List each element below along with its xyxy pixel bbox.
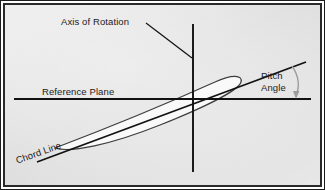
label-reference-plane: Reference Plane [42,86,114,97]
label-axis-of-rotation: Axis of Rotation [61,16,129,27]
label-pitch-angle-line1: Pitch [261,70,286,82]
label-pitch-angle: Pitch Angle [261,70,286,94]
label-pitch-angle-line2: Angle [261,82,286,94]
pitch-angle-diagram: Axis of Rotation Reference Plane Pitch A… [0,0,325,190]
